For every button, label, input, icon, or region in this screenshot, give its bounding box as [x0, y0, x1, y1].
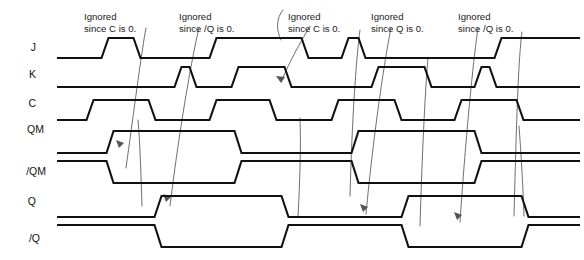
- annotation-line2: since C is 0.: [84, 23, 136, 34]
- timing-diagram-canvas: JKCQM/QMQ/Q Ignoredsince C is 0.Ignoreds…: [0, 0, 584, 260]
- signal-label-nq: /Q: [29, 232, 40, 244]
- arrowhead-group: [116, 76, 462, 220]
- signal-label-j: J: [31, 41, 36, 53]
- signal-label-nqm: /QM: [26, 165, 46, 177]
- waveform-c: [57, 100, 580, 120]
- annotation-text-group: Ignoredsince C is 0.Ignoredsince /Q is 0…: [84, 11, 513, 34]
- annotation-leader-line: [170, 28, 199, 206]
- annotation-leader-line: [126, 28, 146, 168]
- causality-leader-line: [138, 120, 142, 206]
- waveform-j: [57, 38, 580, 58]
- causality-leader-line: [514, 32, 522, 216]
- causality-leader-line: [420, 58, 428, 226]
- waveform-qm: [57, 131, 580, 153]
- waveform-nq: [57, 225, 580, 247]
- signal-label-group: JKCQM/QMQ/Q: [26, 41, 46, 244]
- annotation-leader-line: [366, 28, 391, 214]
- signal-label-q: Q: [28, 195, 36, 207]
- annotation-line1: Ignored: [458, 11, 491, 22]
- annotation-line1: Ignored: [288, 11, 321, 22]
- leader-arrowhead-icon: [116, 140, 124, 148]
- annotation-line1: Ignored: [179, 11, 212, 22]
- annotation-line1: Ignored: [84, 11, 117, 22]
- signal-label-k: K: [29, 68, 36, 80]
- signal-label-c: C: [28, 97, 36, 109]
- annotation-leader-line: [277, 10, 283, 40]
- waveform-k: [57, 67, 580, 87]
- annotation-line2: since Q is 0.: [371, 23, 424, 34]
- waveform-q: [57, 196, 580, 217]
- timing-diagram-figure: JKCQM/QMQ/Q Ignoredsince C is 0.Ignoreds…: [0, 0, 584, 260]
- annotation-line2: since /Q is 0.: [458, 23, 513, 34]
- causality-leader-line: [298, 118, 300, 216]
- leader-arrowhead-icon: [276, 76, 285, 83]
- waveform-nqm: [57, 161, 580, 183]
- waveform-group: [57, 38, 580, 247]
- annotation-line2: since C is 0.: [288, 23, 340, 34]
- signal-label-qm: QM: [27, 123, 44, 135]
- annotation-line2: since /Q is 0.: [179, 23, 234, 34]
- annotation-line1: Ignored: [371, 11, 404, 22]
